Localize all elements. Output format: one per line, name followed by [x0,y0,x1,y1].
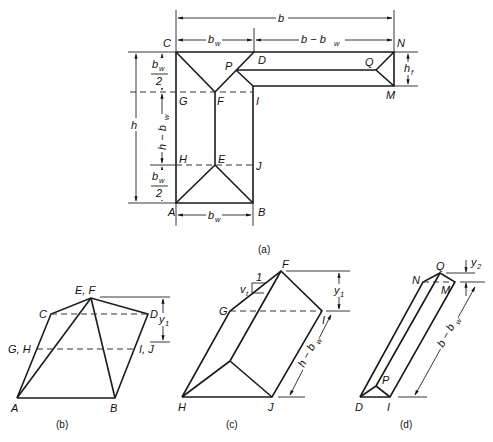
svg-text:P: P [382,374,390,386]
svg-text:w: w [215,215,221,224]
svg-text:2: 2 [155,75,162,87]
svg-text:b − b: b − b [301,33,326,45]
svg-text:G: G [179,95,188,107]
svg-text:b: b [152,58,158,70]
svg-text:1: 1 [256,271,262,283]
svg-text:H: H [178,401,186,413]
svg-text:2: 2 [155,187,162,199]
svg-text:A: A [167,206,175,218]
hip-line-DF [215,52,254,92]
hip-roof-geometry-diagram: b b w b − b w h f h b w 2 h − b w b w 2 … [0,0,493,442]
svg-text:J: J [267,401,274,413]
svg-text:2: 2 [476,262,482,271]
panel-b-end-hip-view: y 1 E, F C D G, H I, J A B (b) [8,284,172,430]
svg-text:G, H: G, H [8,343,31,355]
svg-text:I: I [256,95,259,107]
svg-text:D: D [355,401,363,413]
svg-text:D: D [258,54,266,66]
svg-text:A: A [10,402,18,414]
svg-text:J: J [255,160,262,172]
svg-text:w: w [215,39,221,48]
svg-text:w: w [159,176,165,185]
svg-text:M: M [386,89,396,101]
plan-outline [176,52,394,203]
svg-text:b: b [152,170,158,182]
svg-text:P: P [225,60,233,72]
caption-b: (b) [56,419,68,430]
svg-text:w: w [162,114,171,120]
hip-line-CF [176,52,215,92]
panel-a-plan-view: b b w b − b w h f h b w 2 h − b w b w 2 … [128,10,418,255]
svg-text:C: C [39,308,47,320]
svg-text:D: D [150,308,158,320]
svg-text:Q: Q [436,260,445,272]
svg-text:B: B [110,402,117,414]
svg-text:G: G [219,305,228,317]
svg-text:E, F: E, F [75,284,96,296]
hip-line-BE [215,165,253,203]
svg-text:w: w [334,39,340,48]
svg-text:N: N [412,274,420,286]
valley-line-PI [236,70,253,86]
svg-text:b: b [208,209,214,221]
caption-c: (c) [226,419,238,430]
svg-text:I: I [322,314,325,326]
svg-text:1: 1 [165,319,169,328]
label-b: b [278,12,284,24]
svg-text:F: F [217,95,225,107]
svg-text:H: H [179,153,187,165]
svg-text:N: N [397,37,405,49]
svg-text:w: w [159,64,165,73]
svg-text:E: E [218,153,226,165]
svg-text:F: F [282,258,290,270]
svg-text:I: I [387,401,390,413]
caption-a: (a) [258,244,270,255]
svg-text:h − b: h − b [156,125,168,150]
svg-text:1: 1 [340,290,344,299]
svg-text:I, J: I, J [139,343,154,355]
svg-text:h: h [404,62,410,74]
panel-d-wing-roof-view: y 2 b − b w Q N M P D I (d) [355,256,485,430]
svg-text:B: B [258,206,265,218]
svg-text:b: b [208,33,214,45]
svg-text:h: h [131,119,137,131]
hip-line-AE [176,165,215,203]
svg-text:C: C [163,37,171,49]
svg-text:M: M [441,284,451,296]
caption-d: (d) [400,419,412,430]
panel-c-main-roof-view: 1 v t y 1 h − b w F G I H J (c) [178,258,350,430]
svg-text:Q: Q [365,56,374,68]
hip-line-NQ [376,52,394,70]
hip-line-MQ [376,70,394,86]
